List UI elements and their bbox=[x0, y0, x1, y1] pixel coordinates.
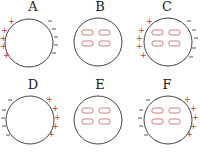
panel-d: D +++++ bbox=[0, 78, 66, 156]
svg-text:+: + bbox=[140, 51, 147, 60]
svg-text:+: + bbox=[0, 42, 7, 51]
svg-text:+: + bbox=[146, 17, 153, 26]
svg-text:+: + bbox=[136, 42, 143, 51]
panel-e: E bbox=[67, 78, 133, 156]
sphere-diagram: +++++ bbox=[134, 0, 200, 78]
svg-text:+: + bbox=[8, 17, 15, 26]
svg-text:+: + bbox=[192, 113, 199, 122]
sphere-diagram: +++++ bbox=[0, 0, 66, 78]
svg-text:+: + bbox=[186, 130, 193, 139]
sphere-diagram bbox=[67, 78, 133, 156]
svg-text:+: + bbox=[3, 51, 10, 60]
svg-text:+: + bbox=[48, 130, 55, 139]
svg-text:+: + bbox=[54, 113, 61, 122]
panel-a: A +++++ bbox=[0, 0, 66, 78]
sphere-diagram: +++++ bbox=[0, 78, 66, 156]
panel-f: F +++++ bbox=[134, 78, 200, 156]
svg-text:+: + bbox=[190, 104, 197, 113]
svg-text:+: + bbox=[46, 95, 53, 104]
panel-c: C +++++ bbox=[134, 0, 200, 78]
panel-b: B bbox=[67, 0, 133, 78]
svg-text:+: + bbox=[184, 95, 191, 104]
sphere-diagram: +++++ bbox=[134, 78, 200, 156]
svg-text:+: + bbox=[52, 104, 59, 113]
sphere-diagram bbox=[67, 0, 133, 78]
